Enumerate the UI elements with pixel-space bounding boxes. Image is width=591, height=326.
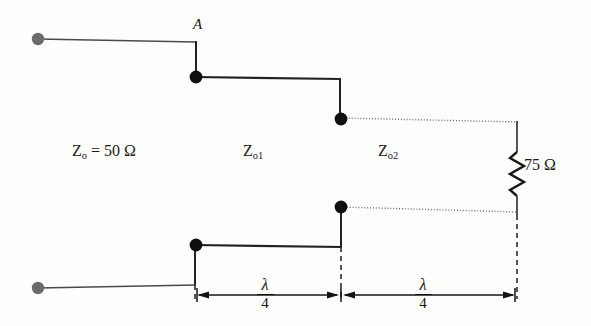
- junction-node-a-top: [190, 71, 203, 84]
- lower-section1-conductor: [195, 245, 342, 247]
- source-impedance-subscript: o: [82, 150, 87, 161]
- section2-impedance-label: Zo2: [378, 143, 398, 159]
- upper-section1-conductor: [195, 77, 341, 79]
- dimension-label-2: λ 4: [406, 277, 440, 312]
- input-terminal-bottom: [32, 282, 44, 294]
- lambda-symbol-1: λ: [248, 277, 282, 293]
- dimension-arrowhead-2-left: [343, 291, 355, 298]
- denominator-2: 4: [406, 296, 440, 312]
- junction-node-b-top: [335, 113, 348, 126]
- input-terminal-top: [32, 33, 44, 45]
- source-impedance-label: Zo = 50 Ω: [72, 143, 136, 159]
- lower-section2-conductor: [341, 207, 517, 212]
- denominator-1: 4: [248, 296, 282, 312]
- lower-source-conductor: [38, 285, 196, 288]
- section2-impedance-subscript: o2: [388, 150, 399, 161]
- schematic-canvas: [0, 0, 591, 326]
- section1-impedance-symbol: Z: [243, 142, 253, 159]
- junction-node-a-bottom: [190, 239, 203, 252]
- transmission-line-diagram: A Zo = 50 Ω Zo1 Zo2 75 Ω λ 4 λ 4: [0, 0, 591, 326]
- section1-impedance-subscript: o1: [253, 150, 264, 161]
- upper-section2-conductor: [340, 118, 518, 122]
- source-impedance-value: = 50 Ω: [87, 142, 136, 159]
- dimension-arrowhead-2-right: [503, 291, 515, 298]
- section1-impedance-label: Zo1: [243, 143, 263, 159]
- dimension-arrowhead-1-right: [327, 291, 339, 298]
- load-resistance-label: 75 Ω: [524, 157, 556, 173]
- upper-source-conductor: [38, 39, 196, 42]
- source-impedance-symbol: Z: [72, 142, 82, 159]
- lambda-symbol-2: λ: [406, 277, 440, 293]
- junction-node-b-bottom: [335, 201, 348, 214]
- node-label-a: A: [193, 17, 202, 32]
- section2-impedance-symbol: Z: [378, 142, 388, 159]
- dimension-label-1: λ 4: [248, 277, 282, 312]
- dimension-arrowhead-1-left: [197, 291, 209, 298]
- load-resistor-zigzag: [510, 152, 524, 196]
